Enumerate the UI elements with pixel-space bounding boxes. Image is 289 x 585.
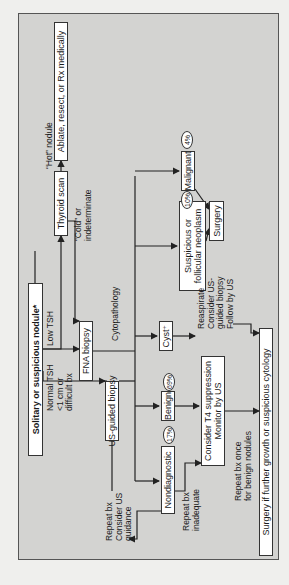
label-hot-nodule: “Hot” nodule [45, 122, 55, 169]
label-repeat-inadequate: Repeat bx inadequate [182, 489, 201, 531]
node-surgery: Surgery [209, 201, 224, 241]
node-us-guided-biopsy: US-guided biopsy [105, 381, 119, 441]
node-thyroid-scan: Thyroid scan [54, 171, 68, 236]
pct-nondiagnostic: 17% [163, 426, 175, 444]
node-ablate: Ablate, resect, or Rx medically [54, 22, 68, 161]
node-surgery-if-growth: Surgery if further growth or suspicious … [259, 328, 273, 556]
node-start: Solitary or suspicious nodule* [28, 283, 43, 456]
label-repeat-us: Repeat bx Consider US guidance [105, 493, 134, 541]
label-cold-indeterminate: “Cold” or indeterminate [74, 189, 93, 241]
label-repeat-once: Repeat bx once for benign nodules [234, 431, 253, 501]
pct-suspicious: 10% [181, 191, 193, 209]
label-low-tsh: Low TSH [46, 311, 56, 346]
node-t4-suppression: Consider T4 suppression Monitor by US [201, 356, 225, 466]
label-normal-tsh: Normal TSH <1 cm or difficult bx [46, 364, 75, 411]
flowchart-frame: Solitary or suspicious nodule* Thyroid s… [18, 13, 279, 560]
flowchart-rotated-canvas: Solitary or suspicious nodule* Thyroid s… [19, 14, 279, 560]
node-benign: Benign [161, 391, 175, 421]
node-nondiagnostic: Nondiagnostic [161, 446, 175, 514]
node-cyst: Cyst⁺ [159, 321, 173, 351]
node-fna-biopsy: FNA biopsy [79, 321, 93, 381]
label-reaspirate: Reaspirate Consider US- guided biopsy Fo… [197, 277, 235, 329]
pct-benign: 69% [163, 373, 175, 391]
node-malignant: Malignant [181, 151, 195, 191]
label-cytopathology: Cytopathology [111, 287, 121, 341]
pct-malignant: 4% [181, 131, 193, 149]
